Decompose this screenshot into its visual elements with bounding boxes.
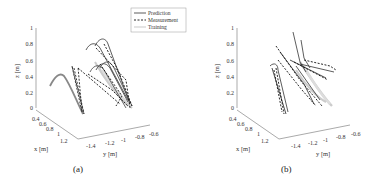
z-tick: 0.8 [26, 41, 34, 47]
y-tick: -1.2 [308, 140, 318, 146]
z-tick: 1 [30, 25, 33, 31]
x-tick: 0.8 [245, 126, 253, 132]
z-tick: 0 [231, 105, 234, 111]
prediction-curve [50, 74, 83, 114]
prediction-curve [280, 52, 314, 104]
x-ticks: 0.4 0.6 0.8 1 1.2 [229, 116, 269, 144]
measurement-curve [274, 70, 282, 112]
z-ticks: 0 0.2 0.4 0.6 0.8 1 [227, 25, 235, 111]
measurement-curve [72, 66, 84, 114]
y-axis-label: y [m] [316, 150, 330, 158]
z-tick: 0.2 [26, 90, 34, 96]
prediction-curve [100, 62, 132, 106]
z-tick: 0.8 [227, 41, 235, 47]
y-tick: -0.8 [336, 134, 346, 140]
panel-a: 0 0.2 0.4 0.6 0.8 1 z [m] 0.4 0.6 0.8 1 … [13, 8, 186, 174]
x-tick: 0.6 [237, 121, 245, 127]
z-tick: 0.6 [227, 58, 235, 64]
legend-training-label: Training [148, 24, 167, 30]
z-tick: 1 [231, 25, 234, 31]
panel-b: 0 0.2 0.4 0.6 0.8 1 z [m] 0.4 0.6 0.8 1 … [213, 25, 361, 174]
y-tick: -0.8 [135, 134, 145, 140]
y-tick: -1 [121, 137, 126, 143]
z-tick: 0.2 [227, 90, 235, 96]
y-axis-label: y [m] [103, 150, 117, 158]
z-tick: 0.4 [26, 74, 34, 80]
trajectories-a [50, 39, 132, 114]
legend-prediction-label: Prediction [148, 10, 171, 16]
prediction-curve [86, 44, 128, 100]
figure: 0 0.2 0.4 0.6 0.8 1 z [m] 0.4 0.6 0.8 1 … [0, 0, 376, 183]
x-tick: 1 [57, 131, 60, 137]
z-axis-label: z [m] [13, 64, 21, 78]
figure-svg: 0 0.2 0.4 0.6 0.8 1 z [m] 0.4 0.6 0.8 1 … [0, 0, 376, 183]
y-tick: -1 [323, 137, 328, 143]
x-axis-label: x [m] [34, 145, 48, 153]
z-tick: 0.4 [227, 74, 235, 80]
y-tick: -0.6 [351, 131, 361, 137]
x-ticks: 0.4 0.6 0.8 1 1.2 [32, 116, 68, 144]
x-tick: 1.2 [261, 138, 269, 144]
y-ticks: -1.4 -1.2 -1 -0.8 -0.6 [86, 131, 159, 149]
trajectories-b [270, 32, 336, 114]
z-ticks: 0 0.2 0.4 0.6 0.8 1 [26, 25, 34, 111]
y-tick: -1.4 [86, 143, 96, 149]
y-tick: -1.4 [291, 143, 301, 149]
y-tick: -0.6 [149, 131, 159, 137]
x-tick: 1 [257, 131, 260, 137]
x-axis-label: x [m] [236, 145, 250, 153]
z-axis-label: z [m] [213, 64, 221, 78]
caption-a: (a) [73, 164, 83, 174]
legend: Prediction Measurement Training [131, 8, 186, 32]
z-tick: 0 [30, 105, 33, 111]
x-tick: 0.4 [229, 116, 237, 122]
legend-measurement-label: Measurement [148, 17, 178, 23]
z-tick: 0.6 [26, 58, 34, 64]
caption-b: (b) [281, 164, 292, 174]
x-tick: 0.8 [46, 126, 54, 132]
y-tick: -1.2 [105, 140, 115, 146]
x-tick: 1.2 [60, 138, 68, 144]
y-ticks: -1.4 -1.2 -1 -0.8 -0.6 [291, 131, 361, 149]
